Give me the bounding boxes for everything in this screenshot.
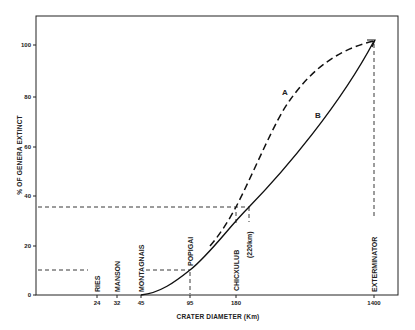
label-ries: RIES: [94, 275, 101, 292]
label-chicxulub: CHICXULUB: [233, 250, 240, 291]
y-tick-60: 60: [24, 144, 31, 150]
y-tick-80: 80: [24, 94, 31, 100]
label-exterminator: EXTERMINATOR: [371, 237, 378, 292]
extinction-chart: 0 20 40 60 80 100 % OF GENERA EXTINCT 24…: [0, 0, 415, 330]
label-manson: MANSON: [114, 261, 121, 292]
curve-a-label: A: [282, 88, 288, 97]
y-tick-0: 0: [28, 292, 32, 298]
y-tick-40: 40: [24, 193, 31, 199]
x-tick-32: 32: [114, 300, 121, 306]
label-montagnais: MONTAGNAIS: [138, 244, 145, 292]
label-chicxulub-size: (220km): [246, 232, 254, 258]
y-tick-100: 100: [21, 42, 32, 48]
x-tick-45: 45: [138, 300, 145, 306]
x-axis-title: CRATER DIAMETER (Km): [177, 313, 260, 321]
curve-a: [210, 41, 374, 246]
plot-frame: [36, 16, 398, 295]
label-popigai: POPIGAI: [187, 237, 194, 266]
curve-b: [141, 41, 374, 295]
curve-b-label: B: [315, 111, 321, 120]
y-tick-20: 20: [24, 243, 31, 249]
x-tick-95: 95: [187, 300, 194, 306]
reference-lines: [38, 44, 374, 294]
y-axis-title: % OF GENERA EXTINCT: [16, 115, 23, 194]
x-tick-1400: 1400: [367, 300, 381, 306]
x-tick-180: 180: [231, 300, 242, 306]
x-tick-24: 24: [94, 300, 101, 306]
